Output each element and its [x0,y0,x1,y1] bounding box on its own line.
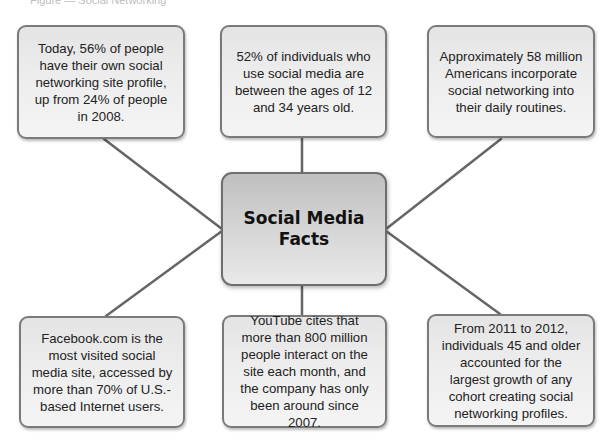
fact-text: Facebook.com is the most visited social … [31,330,173,415]
fact-box-bottom-right: From 2011 to 2012, individuals 45 and ol… [427,314,595,427]
fact-text: YouTube cites that more than 800 million… [234,312,375,431]
connector-bottom-left [106,231,222,316]
fact-box-bottom-left: Facebook.com is the most visited social … [19,316,185,428]
connector-bottom-right [386,231,500,314]
connector-top-right [386,139,501,229]
fact-text: Today, 56% of people have their own soci… [29,40,173,125]
fact-text: From 2011 to 2012, individuals 45 and ol… [439,320,583,422]
fact-box-top-right: Approximately 58 million Americans incor… [427,25,595,138]
fact-box-top-left: Today, 56% of people have their own soci… [17,25,185,139]
fact-text: 52% of individuals who use social media … [232,48,375,116]
connector-top-left [104,139,222,229]
central-topic-title: Social Media Facts [235,208,373,250]
fact-box-bottom-center: YouTube cites that more than 800 million… [222,315,387,428]
central-topic-box: Social Media Facts [221,172,387,286]
fact-box-top-center: 52% of individuals who use social media … [220,25,387,138]
fact-text: Approximately 58 million Americans incor… [439,48,583,116]
